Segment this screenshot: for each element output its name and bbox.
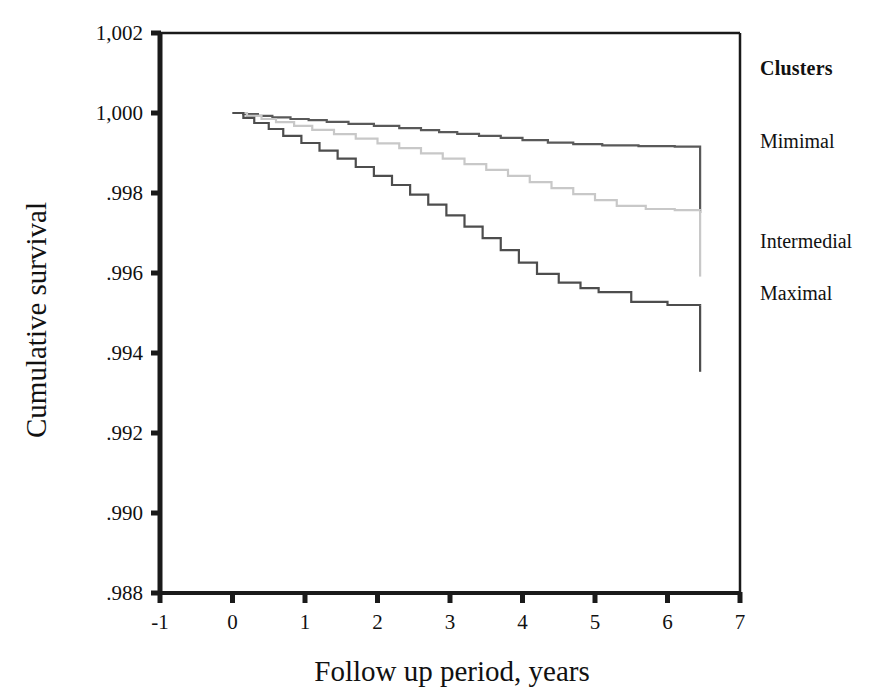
- x-tick-label: 4: [517, 610, 528, 634]
- legend-item-maximal: Maximal: [760, 282, 833, 304]
- y-tick-label: .992: [106, 421, 143, 445]
- x-axis-title: Follow up period, years: [314, 655, 589, 687]
- legend-item-intermedial: Intermedial: [760, 230, 853, 252]
- y-tick-label: .998: [106, 181, 143, 205]
- survival-chart: 1,0021,000.998.996.994.992.990.988 -1012…: [0, 0, 886, 699]
- x-tick-label: 6: [662, 610, 673, 634]
- x-tick-label: -1: [151, 610, 169, 634]
- x-tick-label: 3: [445, 610, 456, 634]
- y-tick-label: 1,002: [96, 21, 143, 45]
- legend-item-mimimal: Mimimal: [760, 130, 835, 152]
- y-tick-label: .994: [106, 341, 143, 365]
- chart-canvas: 1,0021,000.998.996.994.992.990.988 -1012…: [0, 0, 886, 699]
- y-tick-label: .988: [106, 581, 143, 605]
- x-tick-label: 7: [735, 610, 746, 634]
- y-axis-title: Cumulative survival: [20, 202, 52, 438]
- y-tick-label: .996: [106, 261, 143, 285]
- x-tick-label: 5: [590, 610, 601, 634]
- x-tick-label: 1: [300, 610, 311, 634]
- y-tick-label: .990: [106, 501, 143, 525]
- y-tick-label: 1,000: [96, 101, 143, 125]
- x-tick-label: 0: [227, 610, 238, 634]
- legend-title: Clusters: [760, 57, 833, 79]
- x-tick-label: 2: [372, 610, 383, 634]
